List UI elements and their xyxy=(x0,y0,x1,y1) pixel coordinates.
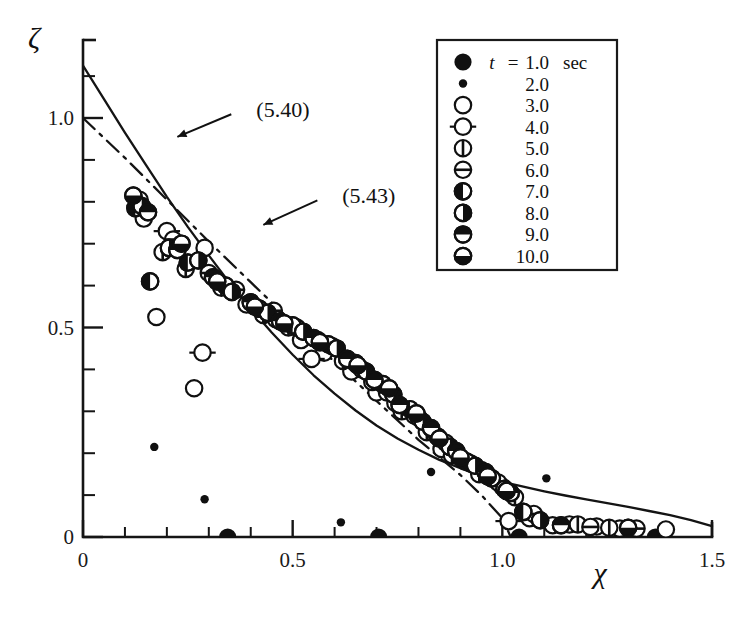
scatter-plot-canvas: (5.40)(5.43) 1.0t=sec2.03.04.05.06.07.08… xyxy=(0,0,754,622)
data-point xyxy=(553,517,569,533)
legend-item-label: 3.0 xyxy=(525,95,549,116)
legend-item-label: 5.0 xyxy=(525,138,549,159)
data-point xyxy=(312,334,328,350)
data-point xyxy=(366,372,382,388)
data-point xyxy=(582,519,598,535)
legend-variable-symbol: t xyxy=(489,52,495,73)
data-point xyxy=(186,380,202,396)
legend-equals-sign: = xyxy=(508,52,519,73)
data-point xyxy=(142,273,158,289)
data-point xyxy=(200,495,208,503)
legend-item-label: 7.0 xyxy=(525,181,549,202)
legend-marker-filled-circle-large xyxy=(454,53,471,70)
legend-unit-label: sec xyxy=(563,52,587,73)
data-point xyxy=(515,504,531,520)
legend-marker-circle-vertical-bar xyxy=(455,140,471,156)
annotation-label: (5.43) xyxy=(342,183,395,208)
x-axis-label: χ xyxy=(590,556,607,589)
data-point xyxy=(173,236,189,252)
y-tick-label: 0.5 xyxy=(48,316,74,340)
x-tick-label: 0.5 xyxy=(280,548,306,572)
data-point xyxy=(381,380,397,396)
data-point xyxy=(408,405,424,421)
data-point xyxy=(247,298,263,314)
legend-marker-open-circle xyxy=(455,97,471,113)
x-tick-label: 0 xyxy=(78,548,89,572)
annotation-label: (5.40) xyxy=(256,97,309,122)
data-point xyxy=(209,273,225,289)
data-point xyxy=(601,520,617,536)
legend-marker-circle-top-filled xyxy=(455,226,471,242)
chart-figure: (5.40)(5.43) 1.0t=sec2.03.04.05.06.07.08… xyxy=(0,0,754,622)
legend-marker-circle-right-half-filled xyxy=(455,205,471,221)
legend-item-label: 6.0 xyxy=(525,160,549,181)
data-point xyxy=(532,512,548,528)
data-point xyxy=(224,284,240,300)
data-point xyxy=(479,468,495,484)
legend-item-label: 9.0 xyxy=(525,224,549,245)
data-point xyxy=(498,483,514,499)
data-point xyxy=(190,252,206,268)
x-tick-label: 1.5 xyxy=(699,548,725,572)
legend: 1.0t=sec2.03.04.05.06.07.08.09.010.0 xyxy=(437,40,617,270)
y-axis-label: ζ xyxy=(28,21,42,54)
data-point xyxy=(148,309,164,325)
legend-marker-filled-dot-small xyxy=(459,79,467,87)
y-tick-label: 1.0 xyxy=(48,106,74,130)
data-point xyxy=(276,315,292,331)
data-point xyxy=(658,521,674,537)
data-point xyxy=(349,357,365,373)
legend-item-label: 4.0 xyxy=(525,117,549,138)
legend-marker-circle-horizontal-bar xyxy=(455,162,471,178)
data-point xyxy=(452,449,468,465)
data-point xyxy=(542,474,550,482)
data-point xyxy=(150,443,158,451)
legend-marker-circle-left-half-filled xyxy=(455,183,471,199)
data-point xyxy=(140,204,156,220)
y-tick-label: 0 xyxy=(64,525,75,549)
data-point xyxy=(427,468,435,476)
legend-item-label: 2.0 xyxy=(525,74,549,95)
data-point xyxy=(620,520,636,536)
data-point xyxy=(431,430,447,446)
legend-item-label: 1.0 xyxy=(525,52,549,73)
x-tick-label: 1.0 xyxy=(489,548,515,572)
legend-item-label: 8.0 xyxy=(525,203,549,224)
data-point xyxy=(337,518,345,526)
data-point xyxy=(391,397,407,413)
data-point xyxy=(125,187,141,203)
legend-item-label: 10.0 xyxy=(516,246,549,267)
legend-marker-circle-bottom-filled xyxy=(455,248,471,264)
